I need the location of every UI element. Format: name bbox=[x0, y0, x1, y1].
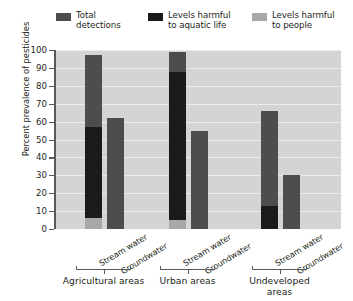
legend-label-total-detections: Total detections bbox=[76, 10, 121, 30]
group-label: Undeveloped areas bbox=[220, 276, 340, 297]
y-axis-tick bbox=[49, 157, 54, 158]
y-axis-tick bbox=[49, 50, 54, 51]
y-axis-tick-label: 40 bbox=[36, 152, 47, 162]
bar bbox=[191, 131, 208, 229]
group-brace-center-tick bbox=[104, 270, 105, 274]
gridline bbox=[56, 50, 341, 51]
y-axis-tick-label: 60 bbox=[36, 117, 47, 127]
bar bbox=[261, 111, 278, 229]
group-brace-tick bbox=[76, 266, 77, 270]
y-axis-tick bbox=[49, 86, 54, 87]
bar-segment-harmful-people bbox=[85, 218, 102, 229]
y-axis-tick bbox=[49, 175, 54, 176]
group-brace-tick bbox=[130, 266, 131, 270]
y-axis-tick-label: 50 bbox=[36, 135, 47, 145]
legend-swatch-harmful-aquatic-life bbox=[148, 13, 163, 21]
plot-area: 1009080706050403020100 bbox=[56, 50, 341, 229]
bar-segment-harmful-aquatic bbox=[169, 72, 186, 221]
y-axis-tick bbox=[49, 68, 54, 69]
legend-swatch-harmful-people bbox=[252, 13, 267, 21]
x-axis-labels: Stream waterGroundwaterStream waterGroun… bbox=[0, 229, 353, 301]
bar-segment-total-detections bbox=[261, 111, 278, 206]
legend-item-total-detections: Total detections bbox=[56, 10, 148, 30]
bar bbox=[283, 175, 300, 229]
legend-item-harmful-people: Levels harmful to people bbox=[252, 10, 348, 30]
bar-segment-total-detections bbox=[283, 175, 300, 229]
group-brace-tick bbox=[214, 266, 215, 270]
bar-segment-total-detections bbox=[169, 52, 186, 72]
y-axis-tick-label: 100 bbox=[31, 45, 47, 55]
y-axis-tick-label: 90 bbox=[36, 63, 47, 73]
group-brace-tick bbox=[160, 266, 161, 270]
bar-segment-total-detections bbox=[107, 118, 124, 229]
group-brace-center-tick bbox=[280, 270, 281, 274]
y-axis-tick bbox=[49, 211, 54, 212]
y-axis-tick bbox=[49, 122, 54, 123]
group-brace-tick bbox=[306, 266, 307, 270]
group-brace-center-tick bbox=[188, 270, 189, 274]
y-axis-tick bbox=[49, 140, 54, 141]
bar bbox=[85, 55, 102, 229]
legend-label-harmful-people: Levels harmful to people bbox=[272, 10, 335, 30]
legend-swatch-total-detections bbox=[56, 13, 71, 21]
bar bbox=[107, 118, 124, 229]
y-axis-line bbox=[54, 50, 56, 229]
y-axis-title: Percent prevalence of pesticides bbox=[21, 0, 31, 179]
bar-segment-harmful-aquatic bbox=[261, 206, 278, 229]
y-axis-tick-label: 80 bbox=[36, 81, 47, 91]
y-axis-tick-label: 20 bbox=[36, 188, 47, 198]
group-brace-tick bbox=[252, 266, 253, 270]
bar-segment-harmful-aquatic bbox=[85, 127, 102, 218]
y-axis-tick-label: 70 bbox=[36, 99, 47, 109]
legend-label-harmful-aquatic-life: Levels harmful to aquatic life bbox=[168, 10, 231, 30]
bar-segment-total-detections bbox=[191, 131, 208, 229]
legend-item-harmful-aquatic-life: Levels harmful to aquatic life bbox=[148, 10, 252, 30]
y-axis-tick bbox=[49, 104, 54, 105]
bar-segment-harmful-people bbox=[169, 220, 186, 229]
y-axis-tick-label: 30 bbox=[36, 170, 47, 180]
y-axis-tick-label: 10 bbox=[36, 206, 47, 216]
bar bbox=[169, 52, 186, 229]
chart-legend: Total detections Levels harmful to aquat… bbox=[56, 10, 348, 40]
y-axis-tick bbox=[49, 193, 54, 194]
bar-segment-total-detections bbox=[85, 55, 102, 127]
